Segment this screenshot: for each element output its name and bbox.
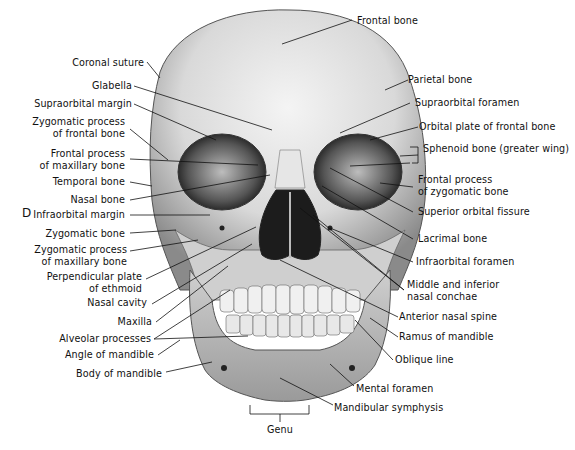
orbit-right [314, 134, 402, 210]
label-glabella: Glabella [92, 80, 132, 92]
label-lacrimal-bone: Lacrimal bone [418, 233, 487, 245]
label-orbital-plate-frontal: Orbital plate of frontal bone [419, 121, 556, 133]
label-sphenoid-greater-wing: Sphenoid bone (greater wing) [423, 143, 569, 155]
panel-letter: D [22, 206, 31, 220]
label-ramus-of-mandible: Ramus of mandible [399, 331, 494, 343]
label-infraorbital-foramen: Infraorbital foramen [416, 256, 514, 268]
label-frontal-process-maxillary: Frontal processof maxillary bone [40, 148, 125, 172]
orbit-left [178, 134, 266, 210]
label-mental-foramen: Mental foramen [356, 383, 433, 395]
label-zygomatic-process-frontal: Zygomatic processof frontal bone [32, 116, 125, 140]
label-supraorbital-foramen: Supraorbital foramen [415, 97, 519, 109]
label-zygomatic-bone: Zygomatic bone [45, 228, 125, 240]
label-oblique-line: Oblique line [395, 354, 454, 366]
label-temporal-bone: Temporal bone [53, 176, 125, 188]
label-infraorbital-margin: Infraorbital margin [33, 209, 125, 221]
nasal-bone [275, 150, 305, 188]
label-perpendicular-plate-ethmoid: Perpendicular plateof ethmoid [47, 271, 142, 295]
label-alveolar-processes: Alveolar processes [59, 333, 151, 345]
label-supraorbital-margin: Supraorbital margin [34, 98, 132, 110]
label-zygomatic-process-maxillary: Zygomatic processof maxillary bone [34, 244, 127, 268]
label-angle-of-mandible: Angle of mandible [65, 349, 154, 361]
label-superior-orbital-fissure: Superior orbital fissure [418, 206, 530, 218]
genu-bracket [250, 405, 309, 422]
skull-diagram: D Coronal suture Glabella Supraorbital m… [0, 0, 575, 450]
label-genu: Genu [267, 424, 293, 436]
label-coronal-suture: Coronal suture [72, 57, 144, 69]
upper-teeth [220, 285, 360, 314]
lower-teeth [226, 315, 354, 337]
label-anterior-nasal-spine: Anterior nasal spine [399, 311, 497, 323]
label-frontal-bone: Frontal bone [357, 15, 418, 27]
label-nasal-cavity: Nasal cavity [87, 297, 147, 309]
label-parietal-bone: Parietal bone [408, 74, 472, 86]
label-body-of-mandible: Body of mandible [76, 368, 162, 380]
label-frontal-process-zygomatic: Frontal processof zygomatic bone [418, 174, 509, 198]
label-maxilla: Maxilla [118, 316, 152, 328]
label-middle-inferior-nasal-conchae: Middle and inferiornasal conchae [407, 279, 499, 303]
label-mandibular-symphysis: Mandibular symphysis [334, 402, 443, 414]
label-nasal-bone: Nasal bone [70, 194, 125, 206]
